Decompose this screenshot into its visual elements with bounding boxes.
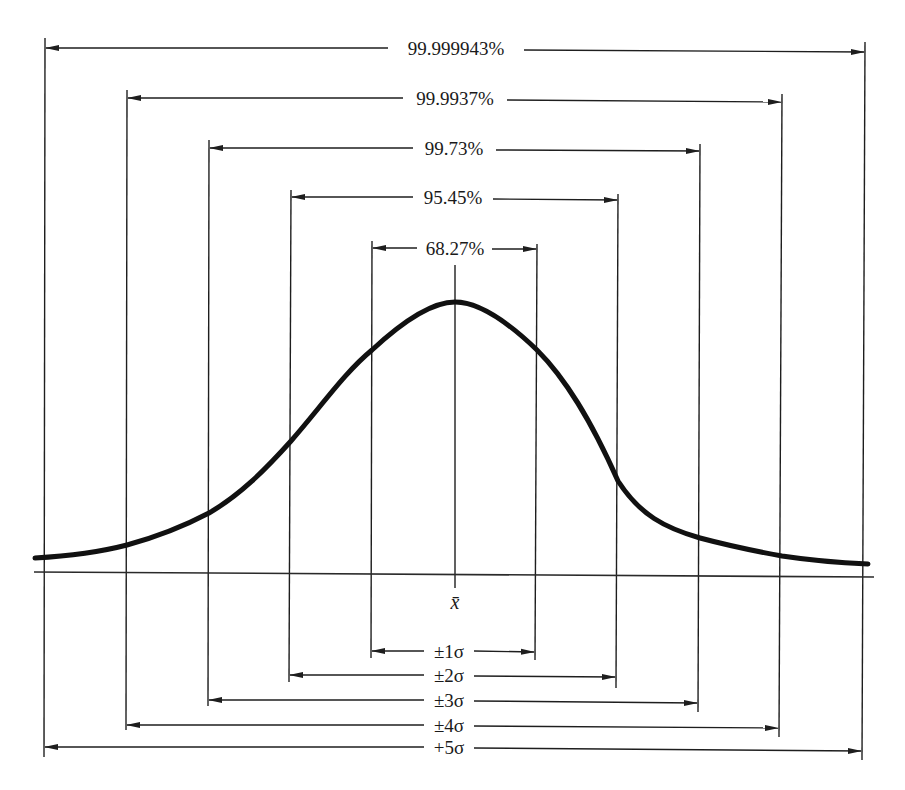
bell-curve — [35, 302, 868, 564]
sigma-label-5: +5σ — [434, 737, 464, 758]
boundary-line-1s-left — [371, 241, 372, 658]
boundary-line-1s-right — [535, 244, 537, 660]
coverage-label-5s: 99.999943% — [408, 38, 505, 59]
normal-distribution-diagram: 99.999943% 99.9937% 99.73% 95.45% 68.27%… — [0, 0, 905, 790]
boundary-line-3s-right — [698, 144, 700, 712]
coverage-label-4s: 99.9937% — [416, 88, 494, 109]
sigma-label-4: ±4σ — [434, 715, 464, 736]
x-axis-baseline — [34, 572, 874, 577]
sigma-label-1: ±1σ — [434, 641, 464, 662]
boundary-line-5s-left — [44, 38, 45, 757]
coverage-label-2s: 95.45% — [424, 187, 483, 208]
mean-label: x̄ — [450, 591, 460, 613]
boundary-line-5s-right — [862, 42, 865, 760]
sigma-label-3: ±3σ — [434, 690, 464, 711]
boundary-line-3s-left — [208, 140, 209, 706]
coverage-label-3s: 99.73% — [425, 138, 484, 159]
coverage-label-1s: 68.27% — [426, 238, 485, 259]
sigma-label-2: ±2σ — [434, 665, 464, 686]
boundary-line-2s-right — [616, 194, 618, 688]
boundary-line-2s-left — [289, 190, 291, 682]
boundary-line-4s-left — [126, 90, 127, 730]
boundary-line-4s-right — [779, 94, 782, 737]
